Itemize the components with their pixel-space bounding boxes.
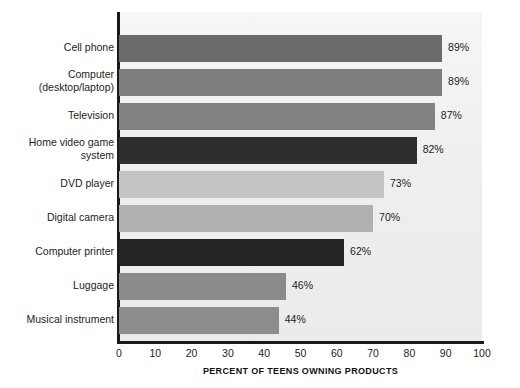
bar-value-label: 82%	[423, 143, 444, 155]
bar-fill	[119, 171, 384, 198]
x-axis-title: PERCENT OF TEENS OWNING PRODUCTS	[119, 366, 482, 376]
bar-row: Musical instrument44%	[0, 304, 520, 338]
bar-row: Cell phone89%	[0, 32, 520, 66]
category-label: Cell phone	[0, 41, 114, 54]
bar-row: Luggage46%	[0, 270, 520, 304]
bar-value-label: 87%	[441, 109, 462, 121]
bar-value-label: 44%	[285, 313, 306, 325]
bar	[119, 205, 373, 232]
x-tick-label: 60	[317, 347, 357, 359]
category-label: Computer (desktop/laptop)	[0, 68, 114, 93]
bar-fill	[119, 35, 442, 62]
bar	[119, 35, 442, 62]
category-label: Luggage	[0, 279, 114, 292]
bar-value-label: 73%	[390, 177, 411, 189]
bar	[119, 239, 344, 266]
x-tick-label: 20	[172, 347, 212, 359]
category-label: Musical instrument	[0, 313, 114, 326]
bar-value-label: 70%	[379, 211, 400, 223]
x-tick-label: 40	[244, 347, 284, 359]
x-tick-label: 90	[426, 347, 466, 359]
bar-row: Computer printer62%	[0, 236, 520, 270]
bar-value-label: 62%	[350, 245, 371, 257]
bar	[119, 307, 279, 334]
bar-value-label: 89%	[448, 41, 469, 53]
bar-fill	[119, 205, 373, 232]
category-label: Computer printer	[0, 245, 114, 258]
bar-row: Digital camera70%	[0, 202, 520, 236]
x-tick-label: 50	[281, 347, 321, 359]
x-tick-label: 10	[135, 347, 175, 359]
category-label: Home video game system	[0, 136, 114, 161]
bar	[119, 171, 384, 198]
bar-fill	[119, 137, 417, 164]
bar-value-label: 89%	[448, 75, 469, 87]
bar-row: Computer (desktop/laptop)89%	[0, 66, 520, 100]
bar	[119, 137, 417, 164]
bar-value-label: 46%	[292, 279, 313, 291]
x-tick-label: 30	[208, 347, 248, 359]
x-tick-label: 70	[353, 347, 393, 359]
bar-row: Television87%	[0, 100, 520, 134]
bar-fill	[119, 69, 442, 96]
category-label: DVD player	[0, 177, 114, 190]
bar-fill	[119, 273, 286, 300]
category-label: Digital camera	[0, 211, 114, 224]
bar-row: DVD player73%	[0, 168, 520, 202]
x-tick-label: 0	[99, 347, 139, 359]
bar-fill	[119, 307, 279, 334]
x-axis-line	[117, 341, 484, 344]
bar	[119, 273, 286, 300]
bar-row: Home video game system82%	[0, 134, 520, 168]
bar-fill	[119, 103, 435, 130]
bar	[119, 103, 435, 130]
x-tick-label: 100	[462, 347, 502, 359]
x-tick-label: 80	[389, 347, 429, 359]
category-label: Television	[0, 109, 114, 122]
bar-fill	[119, 239, 344, 266]
bar	[119, 69, 442, 96]
bar-chart: Cell phone89%Computer (desktop/laptop)89…	[0, 0, 520, 388]
